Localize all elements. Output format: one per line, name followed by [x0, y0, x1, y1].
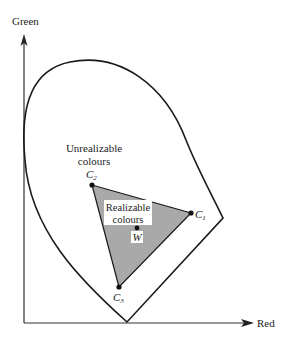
label-c1: C1 [195, 208, 206, 222]
label-w: W [132, 231, 142, 243]
point-c3 [116, 284, 121, 289]
point-c2 [89, 182, 94, 187]
label-c2: C2 [86, 168, 97, 182]
red-axis-label: Red [257, 317, 275, 329]
point-c1 [188, 210, 193, 215]
green-axis-label: Green [12, 15, 39, 27]
red-axis [24, 319, 254, 327]
realizable-label-line1: Realizable [106, 202, 151, 213]
unrealizable-label-line1: Unrealizable [66, 142, 122, 154]
label-c3: C3 [113, 291, 124, 305]
point-w [135, 226, 140, 231]
green-axis [21, 34, 28, 323]
unrealizable-label-line2: colours [78, 155, 110, 167]
realizable-label-line2: colours [113, 214, 144, 225]
chromaticity-diagram: Green Red Unrealizable colours Realizabl… [0, 0, 290, 338]
